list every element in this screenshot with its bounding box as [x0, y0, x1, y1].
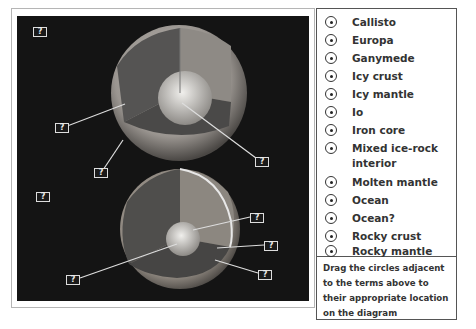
drag-handle-icon[interactable]	[325, 34, 337, 46]
term-rocky-mantle: Rocky mantle	[325, 244, 450, 259]
term-ocean-question: Ocean?	[325, 211, 450, 226]
drop-target-top-1[interactable]: ?	[33, 27, 47, 37]
term-europa: Europa	[325, 33, 450, 48]
drop-target-bottom-5[interactable]: ?	[66, 275, 80, 285]
drop-target-bottom-3[interactable]: ?	[264, 241, 278, 251]
term-mixed-ice-rock-interior: Mixed ice-rock interior	[325, 141, 450, 171]
drag-handle-icon[interactable]	[325, 176, 337, 188]
term-io: Io	[325, 105, 450, 120]
bottom-moon	[80, 169, 264, 289]
drag-handle-icon[interactable]	[325, 16, 337, 28]
term-ganymede: Ganymede	[325, 51, 450, 66]
drag-handle-icon[interactable]	[325, 124, 337, 136]
term-label: Ganymede	[352, 51, 450, 66]
term-label: Icy crust	[352, 69, 450, 84]
instructions-text: Drag the circles adjacent to the terms a…	[323, 261, 453, 321]
term-label: Rocky crust	[352, 229, 450, 244]
drop-target-bottom-4[interactable]: ?	[258, 270, 272, 280]
drop-target-bottom-1[interactable]: ?	[36, 192, 50, 202]
drop-target-top-3[interactable]: ?	[94, 168, 108, 178]
drag-handle-icon[interactable]	[325, 70, 337, 82]
term-label: Iron core	[352, 123, 450, 138]
term-label: Io	[352, 105, 450, 120]
term-label: Rocky mantle	[352, 244, 450, 259]
drop-target-top-2[interactable]: ?	[55, 123, 69, 133]
term-label: Molten mantle	[352, 175, 450, 190]
drop-target-top-4[interactable]: ?	[255, 157, 269, 167]
drag-handle-icon[interactable]	[325, 142, 337, 154]
term-iron-core: Iron core	[325, 123, 450, 138]
term-molten-mantle: Molten mantle	[325, 175, 450, 190]
drag-handle-icon[interactable]	[325, 194, 337, 206]
drag-handle-icon[interactable]	[325, 88, 337, 100]
drag-handle-icon[interactable]	[325, 245, 337, 257]
moon-interior-diagram: ? ? ? ? ? ? ? ? ?	[17, 16, 309, 301]
term-icy-mantle: Icy mantle	[325, 87, 450, 102]
terms-panel: Callisto Europa Ganymede Icy crust Icy m…	[316, 8, 457, 320]
term-label: Callisto	[352, 15, 450, 30]
term-label: Ocean	[352, 193, 450, 208]
term-label: Europa	[352, 33, 450, 48]
term-rocky-crust: Rocky crust	[325, 229, 450, 244]
term-callisto: Callisto	[325, 15, 450, 30]
drag-handle-icon[interactable]	[325, 106, 337, 118]
drag-handle-icon[interactable]	[325, 230, 337, 242]
term-label: Mixed ice-rock interior	[352, 141, 450, 171]
drop-target-bottom-2[interactable]: ?	[250, 213, 264, 223]
term-icy-crust: Icy crust	[325, 69, 450, 84]
term-label: Icy mantle	[352, 87, 450, 102]
term-label: Ocean?	[352, 211, 450, 226]
drag-handle-icon[interactable]	[325, 52, 337, 64]
drag-handle-icon[interactable]	[325, 212, 337, 224]
terms-list: Callisto Europa Ganymede Icy crust Icy m…	[317, 9, 456, 257]
term-ocean: Ocean	[325, 193, 450, 208]
top-moon	[62, 25, 260, 173]
